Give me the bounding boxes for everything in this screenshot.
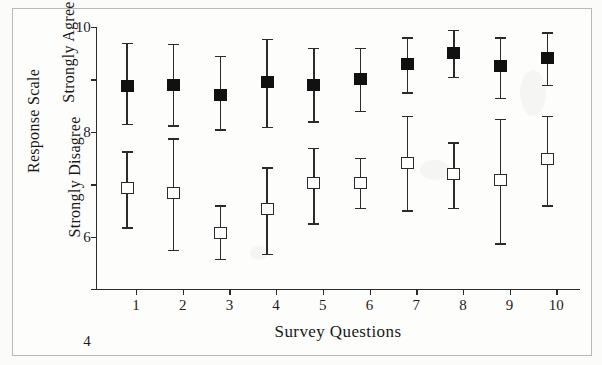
plot-area: 0246810 12345678910 [96, 27, 580, 289]
error-bar-cap-lower [308, 121, 319, 122]
error-bar-cap-lower [122, 124, 133, 125]
y-axis-tick-label: 4 [83, 334, 91, 349]
error-bar-cap-lower [448, 208, 459, 209]
marker-open-square [447, 168, 460, 180]
y-axis-tick-label: 10 [76, 20, 91, 35]
x-axis-tick [276, 289, 277, 295]
marker-open-square [541, 153, 554, 165]
marker-filled-square [121, 80, 134, 92]
error-bar-cap-upper [168, 138, 179, 139]
x-axis-tick-label: 7 [412, 298, 420, 313]
x-axis-tick-label: 1 [132, 298, 140, 313]
error-bar-cap-upper [495, 119, 506, 120]
x-axis-tick-label: 6 [366, 298, 374, 313]
error-bar-cap-upper [168, 44, 179, 45]
marker-filled-square [354, 73, 367, 85]
error-bar-cap-lower [355, 111, 366, 112]
marker-filled-square [401, 58, 414, 70]
error-bar-cap-lower [262, 127, 273, 128]
error-bar-cap-upper [215, 205, 226, 206]
marker-filled-square [447, 47, 460, 59]
x-axis-tick [136, 289, 137, 295]
x-axis-tick [183, 289, 184, 295]
error-bar-cap-upper [215, 56, 226, 57]
x-axis-tick-label: 2 [179, 298, 187, 313]
x-axis-tick-label: 9 [506, 298, 514, 313]
x-axis-line [96, 289, 580, 290]
marker-open-square [494, 174, 507, 186]
error-bar-cap-upper [308, 48, 319, 49]
marker-filled-square [494, 60, 507, 72]
error-bar-cap-lower [168, 125, 179, 126]
error-bar-cap-upper [262, 167, 273, 168]
y-axis-tick: 10 [91, 27, 96, 28]
marker-filled-square [167, 79, 180, 91]
error-bar-cap-lower [448, 77, 459, 78]
marker-filled-square [214, 89, 227, 101]
x-axis-tick [463, 289, 464, 295]
marker-open-square [121, 182, 134, 194]
x-axis-tick-label: 3 [226, 298, 234, 313]
error-bar-cap-upper [495, 37, 506, 38]
x-axis-tick [229, 289, 230, 295]
error-bar-cap-upper [402, 116, 413, 117]
x-axis-tick-label: 5 [319, 298, 327, 313]
x-axis-tick-label: 4 [272, 298, 280, 313]
y-axis-tick-label: 6 [83, 229, 91, 244]
error-bar-cap-lower [262, 254, 273, 255]
x-axis-tick [556, 289, 557, 295]
marker-open-square [307, 177, 320, 189]
marker-filled-square [541, 52, 554, 64]
error-bar-cap-lower [542, 85, 553, 86]
y-axis-title: Response Scale [25, 61, 43, 181]
error-bar-cap-upper [122, 43, 133, 44]
marker-open-square [167, 187, 180, 199]
error-bar-cap-lower [495, 98, 506, 99]
marker-filled-square [307, 79, 320, 91]
x-axis-tick [323, 289, 324, 295]
error-bar-cap-upper [448, 142, 459, 143]
error-bar-cap-lower [542, 205, 553, 206]
y-axis-tick: 0 [91, 289, 96, 290]
y-axis-tick: 2 [91, 237, 96, 238]
error-bar-cap-lower [215, 129, 226, 130]
marker-open-square [214, 227, 227, 239]
error-bar-cap-lower [122, 227, 133, 228]
y-axis-line [96, 27, 97, 289]
figure-container: Response Scale Strongly Agree Strongly D… [0, 0, 602, 365]
x-axis-tick [510, 289, 511, 295]
y-axis-tick-label: 8 [83, 124, 91, 139]
marker-open-square [354, 177, 367, 189]
error-bar-cap-upper [402, 37, 413, 38]
error-bar-cap-upper [542, 116, 553, 117]
error-bar-cap-lower [355, 208, 366, 209]
marker-open-square [261, 203, 274, 215]
error-bar-cap-lower [168, 250, 179, 251]
y-axis-tick: 8 [91, 79, 96, 80]
marker-open-square [401, 157, 414, 169]
error-bar-cap-upper [122, 151, 133, 152]
x-axis-tick [370, 289, 371, 295]
error-bar-cap-lower [402, 210, 413, 211]
error-bar-cap-upper [542, 32, 553, 33]
marker-filled-square [261, 76, 274, 88]
y-axis-tick: 6 [91, 132, 96, 133]
error-bar-cap-lower [402, 92, 413, 93]
error-bar-cap-upper [355, 158, 366, 159]
error-bar-cap-upper [262, 39, 273, 40]
x-axis-title: Survey Questions [96, 322, 580, 342]
error-bar-cap-upper [448, 30, 459, 31]
error-bar-cap-lower [495, 243, 506, 244]
error-bar-cap-lower [308, 223, 319, 224]
x-axis-tick-label: 8 [459, 298, 467, 313]
y-axis-tick: 4 [91, 184, 96, 185]
x-axis-tick-label: 10 [549, 298, 564, 313]
error-bar-cap-upper [308, 148, 319, 149]
error-bar-cap-upper [355, 48, 366, 49]
x-axis-tick [416, 289, 417, 295]
error-bar-cap-lower [215, 259, 226, 260]
y-axis-anchor-low-label: Strongly Disagree [66, 95, 84, 260]
